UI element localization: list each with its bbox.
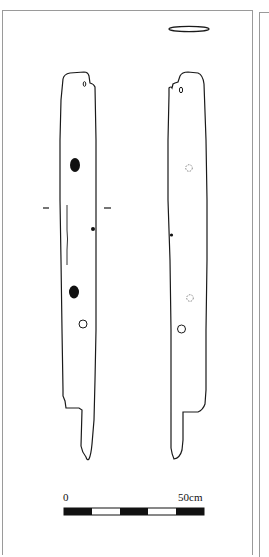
plank-outline: [60, 72, 96, 460]
nail-dot-icon: [170, 233, 173, 236]
dashed-hole-icon: [186, 165, 193, 172]
scale-segment-black: [64, 508, 92, 515]
nail-dot-icon: [91, 227, 95, 231]
scale-segment-black: [120, 508, 148, 515]
scale-bar: [64, 508, 204, 515]
filled-hole-icon: [70, 158, 80, 172]
section-profile-ellipse: [169, 26, 209, 31]
scale-segment-black: [176, 508, 204, 515]
peg-hole-icon: [179, 87, 182, 93]
scale-start-label: 0: [63, 492, 69, 503]
filled-hole-icon: [69, 286, 79, 299]
dashed-hole-icon: [187, 295, 194, 302]
plank-outline: [168, 72, 207, 459]
plank-face-a: [43, 72, 111, 460]
peg-hole-icon: [83, 82, 86, 87]
open-hole-icon: [178, 325, 186, 333]
open-hole-icon: [79, 320, 87, 328]
grain-line: [67, 205, 68, 265]
plank-face-b: [168, 72, 207, 459]
scale-end-label: 50cm: [178, 492, 202, 503]
